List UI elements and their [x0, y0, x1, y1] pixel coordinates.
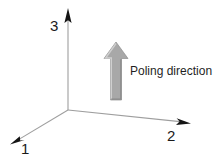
axis-label-2: 2: [167, 128, 175, 143]
axes-and-arrow-graphics: [0, 0, 214, 161]
poling-direction-arrow: [104, 42, 128, 100]
axis-label-1: 1: [21, 141, 29, 156]
axis-1-group: [10, 110, 68, 145]
axis-3-group: [64, 8, 71, 110]
axis-1-line: [19, 110, 69, 140]
poling-arrow-body: [104, 42, 128, 100]
axis-label-3: 3: [50, 18, 58, 33]
axis-2-group: [68, 110, 191, 125]
poling-direction-diagram: 3 2 1 Poling direction: [0, 0, 214, 161]
poling-direction-caption: Poling direction: [130, 65, 212, 77]
axis-2-line: [68, 110, 180, 122]
